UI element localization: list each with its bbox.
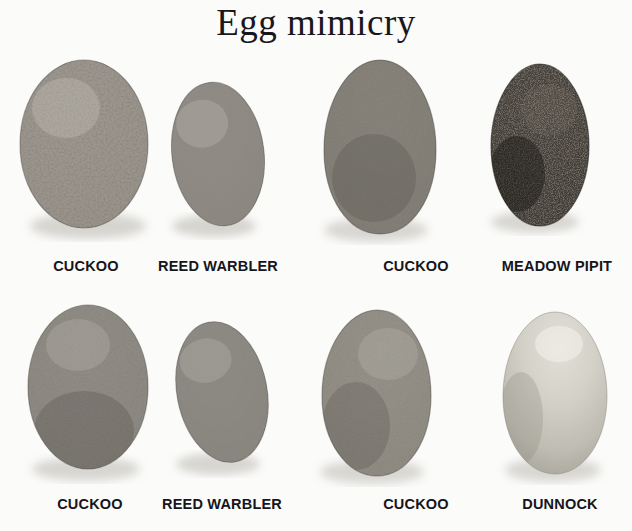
egg-reed-warbler-bottom — [172, 318, 272, 470]
caption-cuckoo-dunnock: CUCKOO — [355, 496, 477, 513]
caption-dunnock: DUNNOCK — [500, 496, 620, 513]
egg-meadow-pipit — [487, 62, 593, 230]
caption-meadow-pipit: MEADOW PIPIT — [496, 258, 618, 275]
caption-cuckoo-reed-warbler-bottom: CUCKOO — [22, 496, 158, 513]
caption-reed-warbler-bottom: REED WARBLER — [162, 496, 282, 513]
egg-mimicry-figure: Egg mimicry — [0, 0, 632, 531]
egg-reed-warbler-top — [168, 80, 268, 232]
caption-cuckoo-reed-warbler-top: CUCKOO — [18, 258, 154, 275]
caption-cuckoo-meadow-pipit: CUCKOO — [355, 258, 477, 275]
egg-cuckoo-dunnock — [314, 308, 438, 480]
egg-cuckoo-reed-warbler-bottom — [26, 303, 154, 475]
caption-reed-warbler-top: REED WARBLER — [158, 258, 278, 275]
egg-dunnock — [497, 310, 613, 478]
page-title: Egg mimicry — [0, 1, 632, 45]
egg-cuckoo-meadow-pipit — [318, 58, 442, 238]
egg-cuckoo-reed-warbler-top — [18, 58, 154, 234]
